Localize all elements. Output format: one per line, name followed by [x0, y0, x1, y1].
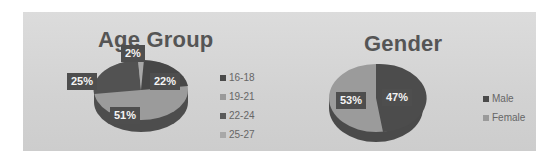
- legend-item-16-18: 16-18: [220, 68, 255, 87]
- age-label-51pct: 51%: [110, 107, 140, 124]
- legend-item-male: Male: [483, 89, 525, 108]
- age-label-2pct: 2%: [121, 45, 145, 62]
- legend-swatch: [220, 75, 226, 81]
- gender-legend: Male Female: [483, 89, 525, 127]
- legend-swatch: [483, 96, 489, 102]
- legend-swatch: [220, 132, 226, 138]
- gender-pie: [279, 12, 536, 151]
- legend-item-19-21: 19-21: [220, 87, 255, 106]
- gender-label-male: 47%: [382, 89, 412, 106]
- age-legend: 16-18 19-21 22-24 25-27: [220, 68, 255, 144]
- legend-swatch: [483, 115, 489, 121]
- legend-item-female: Female: [483, 108, 525, 127]
- age-label-22pct: 22%: [150, 73, 180, 90]
- gender-chart: Gender 53% 47% Male Female: [279, 12, 536, 151]
- legend-item-22-24: 22-24: [220, 106, 255, 125]
- age-group-chart: Age Group 2% 25% 22% 51% 16-18: [23, 12, 279, 151]
- legend-item-25-27: 25-27: [220, 125, 255, 144]
- gender-label-female: 53%: [336, 92, 366, 109]
- age-label-25pct: 25%: [67, 73, 97, 90]
- charts-panel: Age Group 2% 25% 22% 51% 16-18: [23, 12, 536, 151]
- legend-swatch: [220, 113, 226, 119]
- legend-swatch: [220, 94, 226, 100]
